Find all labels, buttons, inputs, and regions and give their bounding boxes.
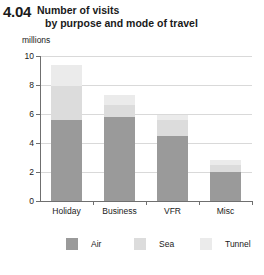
bar-holiday xyxy=(51,65,82,201)
bar-segment-tunnel xyxy=(51,65,82,86)
x-axis-tick-mark xyxy=(93,201,94,205)
x-axis-label-holiday: Holiday xyxy=(52,206,80,216)
bar-series-group xyxy=(40,56,252,201)
bar-segment-air xyxy=(210,172,241,201)
x-axis-label-misc: Misc xyxy=(217,206,234,216)
x-axis-label-vfr: VFR xyxy=(164,206,181,216)
x-axis-tick-mark xyxy=(252,201,253,205)
legend-label-tunnel: Tunnel xyxy=(225,239,251,249)
legend-swatch-sea xyxy=(134,238,146,250)
bar-vfr xyxy=(157,115,188,201)
chart-title-line-1: Number of visits xyxy=(37,4,198,17)
y-axis-tick-mark xyxy=(36,201,40,202)
y-axis-tick-label: 2 xyxy=(29,168,34,177)
legend-label-air: Air xyxy=(91,239,101,249)
x-axis-tick-mark xyxy=(146,201,147,205)
bar-segment-tunnel xyxy=(104,95,135,105)
bar-segment-air xyxy=(104,117,135,201)
figure-number: 4.04 xyxy=(3,4,31,18)
legend-item-air[interactable]: Air xyxy=(66,238,101,250)
y-axis-tick-label: 0 xyxy=(29,197,34,206)
y-axis-tick-label: 6 xyxy=(29,110,34,119)
bar-business xyxy=(104,95,135,201)
bar-segment-air xyxy=(157,136,188,201)
chart-legend: AirSeaTunnel xyxy=(0,236,264,252)
bar-segment-sea xyxy=(157,120,188,136)
y-axis-tick-label: 4 xyxy=(29,139,34,148)
legend-item-tunnel[interactable]: Tunnel xyxy=(200,238,251,250)
legend-item-sea[interactable]: Sea xyxy=(134,238,174,250)
bar-segment-air xyxy=(51,120,82,201)
plot-area: 0246810 HolidayBusinessVFRMisc xyxy=(0,48,264,213)
y-axis-tick-label: 10 xyxy=(25,52,34,61)
chart-title-line-2: by purpose and mode of travel xyxy=(37,17,198,30)
legend-swatch-tunnel xyxy=(200,238,212,250)
bar-misc xyxy=(210,160,241,201)
legend-swatch-air xyxy=(66,238,78,250)
x-axis-labels: HolidayBusinessVFRMisc xyxy=(40,206,252,220)
bar-segment-sea xyxy=(210,165,241,172)
chart-title: Number of visits by purpose and mode of … xyxy=(37,4,198,30)
x-axis-tick-mark xyxy=(199,201,200,205)
bar-segment-sea xyxy=(51,86,82,119)
bar-segment-sea xyxy=(104,105,135,117)
y-axis-units-label: millions xyxy=(0,30,264,45)
y-axis-tick-label: 8 xyxy=(29,81,34,90)
x-axis-label-business: Business xyxy=(102,206,137,216)
legend-label-sea: Sea xyxy=(159,239,174,249)
chart-header: 4.04 Number of visits by purpose and mod… xyxy=(0,0,264,30)
